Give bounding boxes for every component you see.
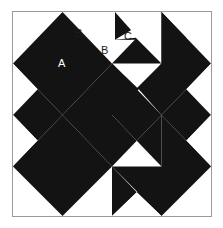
quilt-block-canvas	[13, 12, 211, 216]
quilt-block-frame: A B B C	[12, 11, 212, 217]
quilt-block-figure: A B B C	[0, 0, 223, 228]
